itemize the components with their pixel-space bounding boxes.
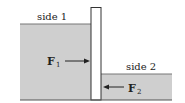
force-2-symbol: F (128, 82, 136, 95)
label-side-1: side 1 (37, 11, 67, 22)
diagram-canvas: side 1 side 2 F 1 F 2 (0, 0, 185, 103)
force-1-symbol: F (47, 55, 55, 68)
label-side-2: side 2 (126, 61, 156, 72)
force-1-subscript: 1 (56, 61, 60, 69)
partition-wall (91, 8, 101, 101)
force-2-subscript: 2 (137, 88, 141, 96)
